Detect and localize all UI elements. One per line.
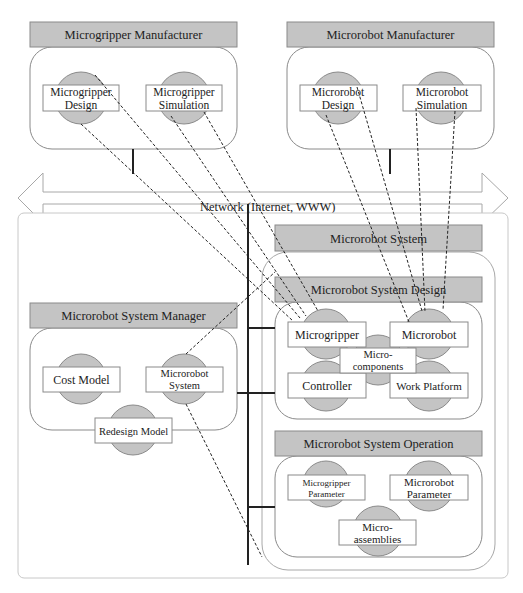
- microrobot-system-manager-title: Microrobot System Manager: [61, 309, 206, 323]
- microrobot-manufacturer-title: Microrobot Manufacturer: [326, 28, 455, 42]
- svg-text:Parameter: Parameter: [308, 489, 344, 499]
- microrobot-manufacturer-group: Microrobot Manufacturer Microrobot Desig…: [287, 22, 494, 149]
- svg-text:Microrobot: Microrobot: [416, 86, 469, 98]
- microrobot-system-operation-title: Microrobot System Operation: [304, 437, 455, 451]
- svg-text:Microgripper: Microgripper: [303, 478, 351, 488]
- svg-text:Microrobot: Microrobot: [404, 476, 454, 488]
- svg-text:Microgripper: Microgripper: [153, 86, 214, 99]
- microrobot-system-title: Microrobot System: [330, 232, 427, 246]
- microrobot-system-design-group: Microrobot System Design Microgripper Mi…: [275, 277, 482, 419]
- svg-text:Microgripper: Microgripper: [295, 328, 359, 342]
- svg-text:Micro-: Micro-: [362, 521, 393, 533]
- svg-text:Micro-: Micro-: [363, 349, 393, 360]
- microrobot-system-design-title: Microrobot System Design: [311, 283, 447, 297]
- svg-text:Microrobot: Microrobot: [402, 328, 457, 342]
- svg-text:Simulation: Simulation: [417, 99, 468, 111]
- svg-text:Work Platform: Work Platform: [396, 380, 462, 392]
- svg-text:components: components: [353, 361, 404, 372]
- system-architecture-diagram: Network (Internet, WWW) Microgripper Man…: [0, 0, 523, 593]
- svg-text:Microrobot: Microrobot: [161, 368, 209, 379]
- svg-text:Design: Design: [65, 99, 98, 112]
- svg-text:Redesign Model: Redesign Model: [99, 426, 168, 437]
- network-label: Network (Internet, WWW): [200, 200, 335, 214]
- svg-text:assemblies: assemblies: [354, 533, 402, 545]
- svg-text:Controller: Controller: [302, 379, 351, 393]
- svg-text:Simulation: Simulation: [159, 99, 210, 111]
- microgripper-manufacturer-title: Microgripper Manufacturer: [65, 28, 204, 42]
- microgripper-manufacturer-group: Microgripper Manufacturer Microgripper D…: [30, 22, 237, 149]
- svg-text:Cost Model: Cost Model: [53, 373, 110, 387]
- svg-text:System: System: [169, 380, 200, 391]
- microrobot-system-operation-group: Microrobot System Operation Microgripper…: [275, 431, 482, 557]
- svg-text:Design: Design: [322, 99, 355, 112]
- svg-text:Microgripper: Microgripper: [50, 86, 111, 99]
- svg-text:Parameter: Parameter: [407, 488, 452, 500]
